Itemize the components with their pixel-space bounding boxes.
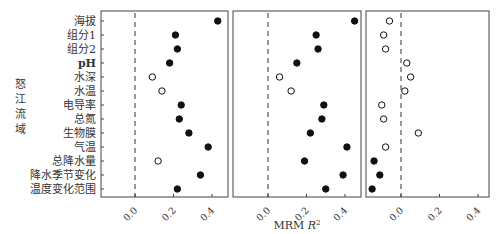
category-label: 组分1 [67,28,96,42]
svg-text:域: 域 [15,123,26,136]
x-axis-label: MRM R2 [273,219,320,232]
panel-frame [233,11,361,197]
filled-point [351,18,357,24]
filled-point [197,172,203,178]
filled-point [215,18,221,24]
x-tick-label: 0.4 [198,205,216,223]
filled-point [377,172,383,178]
filled-point [315,46,321,52]
svg-text:江: 江 [15,93,26,106]
category-labels: 海拔组分1组分2pH水深水温电导率总氮生物膜气温总降水量降水季节变化温度变化范围 [30,14,96,196]
open-point [379,102,385,108]
category-label: pH [78,57,96,70]
category-label: 组分2 [67,42,96,56]
filled-point [174,186,180,192]
filled-point [371,158,377,164]
filled-point [369,186,375,192]
panel-1: 0.00.20.4 [101,11,228,223]
category-label: 电导率 [63,98,96,112]
x-tick-label: 0.2 [159,205,177,223]
x-tick-label: 0.4 [464,205,482,223]
category-label: 总降水量 [52,154,96,168]
filled-point [294,60,300,66]
open-point [288,88,294,94]
category-label: 水温 [74,85,96,98]
filled-point [186,130,192,136]
filled-point [301,158,307,164]
filled-point [174,46,180,52]
mrm-dot-chart: 海拔组分1组分2pH水深水温电导率总氮生物膜气温总降水量降水季节变化温度变化范围… [0,0,499,234]
x-tick-label: 0.0 [254,205,272,223]
x-tick-label: 0.0 [121,205,139,223]
category-label: 海拔 [74,14,96,28]
open-point [380,32,386,38]
filled-point [313,32,319,38]
open-point [415,130,421,136]
x-tick-label: 0.4 [331,205,349,223]
open-point [159,88,165,94]
category-label: 总氮 [74,112,96,126]
category-label: 温度变化范围 [30,182,96,196]
open-point [380,116,386,122]
filled-point [321,102,327,108]
open-point [382,144,388,150]
open-point [149,74,155,80]
x-tick-label: 0.0 [387,205,405,223]
open-point [155,158,161,164]
panel-2: 0.00.20.4 [233,11,361,223]
open-point [276,74,282,80]
panel-frame [101,11,228,197]
category-label: 水深 [74,71,96,84]
category-label: 降水季节变化 [30,168,96,182]
filled-point [307,130,313,136]
filled-point [344,144,350,150]
x-tick-label: 0.2 [425,205,443,223]
filled-point [172,32,178,38]
filled-point [340,172,346,178]
filled-point [205,144,211,150]
filled-point [176,116,182,122]
open-point [382,46,388,52]
svg-text:流: 流 [15,107,26,121]
filled-point [166,60,172,66]
open-point [404,60,410,66]
category-label: 气温 [74,140,96,154]
panel-3: 0.00.20.4 [366,11,489,223]
filled-point [323,186,329,192]
open-point [407,74,413,80]
open-point [402,88,408,94]
category-label: 生物膜 [63,126,96,140]
filled-point [178,102,184,108]
open-point [386,18,392,24]
svg-text:怒: 怒 [15,77,26,91]
filled-point [319,116,325,122]
group-label: 怒江流域 [15,77,26,136]
